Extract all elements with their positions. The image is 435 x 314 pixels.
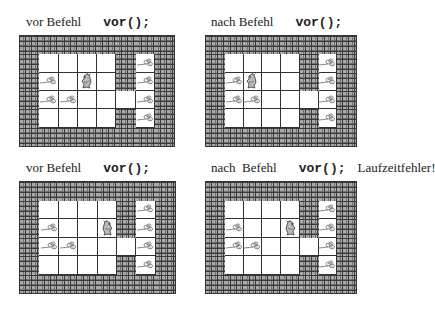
floor-tile — [78, 54, 97, 72]
wall-tile — [155, 109, 174, 127]
wall-tile — [155, 36, 174, 54]
wall-tile — [206, 36, 225, 54]
wall-tile — [116, 73, 135, 91]
grain-icon — [137, 76, 153, 86]
floor-tile — [225, 238, 244, 257]
wall-tile — [337, 54, 356, 72]
wall-tile — [281, 36, 300, 54]
grain-icon — [41, 223, 57, 233]
floor-tile — [225, 54, 244, 72]
wall-tile — [206, 256, 225, 275]
grain-icon — [137, 241, 153, 251]
wall-tile — [59, 128, 78, 146]
floor-tile — [39, 201, 58, 220]
wall-tile — [20, 182, 39, 201]
wall-tile — [116, 128, 135, 146]
floor-tile — [262, 238, 281, 257]
panel-caption: nach Befehlvor();Laufzeitfehler! — [211, 160, 435, 177]
floor-tile — [225, 201, 244, 220]
grain-icon — [137, 58, 153, 68]
hamster-territory — [205, 181, 357, 294]
floor-tile — [225, 109, 244, 127]
floor-tile — [262, 256, 281, 275]
wall-tile — [337, 182, 356, 201]
floor-tile — [97, 91, 116, 109]
grain-icon — [244, 95, 260, 105]
floor-tile — [281, 201, 300, 220]
wall-tile — [337, 128, 356, 146]
wall-tile — [225, 275, 244, 294]
floor-tile — [78, 73, 97, 91]
floor-tile — [39, 238, 58, 257]
caption-command: vor(); — [299, 161, 346, 176]
wall-tile — [300, 201, 319, 220]
wall-tile — [225, 36, 244, 54]
wall-tile — [78, 128, 97, 146]
grain-icon — [226, 76, 242, 86]
floor-tile — [244, 219, 263, 238]
grain-icon — [226, 241, 242, 251]
grain-icon — [319, 76, 335, 86]
wall-tile — [300, 219, 319, 238]
floor-tile — [136, 238, 155, 257]
wall-tile — [116, 36, 135, 54]
wall-tile — [319, 36, 338, 54]
grain-icon — [319, 223, 335, 233]
wall-tile — [39, 128, 58, 146]
wall-tile — [337, 275, 356, 294]
grain-icon — [319, 95, 335, 105]
floor-tile — [136, 73, 155, 91]
floor-tile — [59, 238, 78, 257]
caption-command: vor(); — [295, 15, 342, 30]
wall-tile — [117, 275, 136, 294]
floor-tile — [39, 73, 58, 91]
wall-tile — [97, 36, 116, 54]
wall-tile — [300, 54, 319, 72]
wall-tile — [59, 36, 78, 54]
wall-tile — [117, 201, 136, 220]
wall-tile — [39, 182, 58, 201]
grain-icon — [137, 95, 153, 105]
wall-tile — [262, 275, 281, 294]
floor-tile — [244, 238, 263, 257]
grain-icon — [226, 223, 242, 233]
floor-tile — [98, 238, 117, 257]
floor-tile — [281, 109, 300, 127]
floor-tile — [78, 91, 97, 109]
wall-tile — [20, 109, 39, 127]
floor-tile — [97, 54, 116, 72]
hamster-territory — [19, 35, 175, 147]
floor-tile — [319, 219, 338, 238]
wall-tile — [155, 91, 174, 109]
wall-tile — [300, 73, 319, 91]
floor-tile — [281, 54, 300, 72]
wall-tile — [300, 109, 319, 127]
floor-tile — [225, 219, 244, 238]
wall-tile — [136, 182, 155, 201]
wall-tile — [59, 182, 78, 201]
wall-tile — [156, 256, 175, 275]
floor-tile — [319, 109, 338, 127]
wall-tile — [244, 275, 263, 294]
floor-tile — [225, 91, 244, 109]
wall-tile — [337, 73, 356, 91]
wall-tile — [20, 36, 39, 54]
caption-error: Laufzeitfehler! — [358, 160, 435, 175]
grain-icon — [40, 76, 56, 86]
wall-tile — [136, 128, 155, 146]
wall-tile — [117, 256, 136, 275]
wall-tile — [156, 219, 175, 238]
wall-tile — [20, 91, 39, 109]
floor-tile — [117, 238, 136, 257]
panel-caption: vor Befehlvor(); — [26, 160, 150, 177]
wall-tile — [281, 128, 300, 146]
floor-tile — [59, 219, 78, 238]
hamster-icon — [81, 73, 93, 89]
floor-tile — [262, 109, 281, 127]
grain-icon — [137, 223, 153, 233]
floor-tile — [98, 219, 117, 238]
wall-tile — [78, 36, 97, 54]
wall-tile — [156, 275, 175, 294]
wall-tile — [20, 54, 39, 72]
caption-prefix: vor Befehl — [26, 160, 81, 175]
